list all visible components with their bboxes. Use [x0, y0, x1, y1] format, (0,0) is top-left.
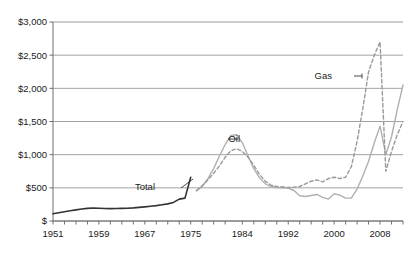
x-axis-tick-label: 1959	[88, 228, 109, 239]
total-label: Total	[135, 181, 155, 192]
x-axis: 19511959196719751984199220002008	[42, 221, 403, 239]
chart-container: $$500$1,000$1,500$2,000$2,500$3,00019511…	[0, 0, 419, 260]
series-line-gas	[196, 42, 403, 191]
x-axis-tick-label: 2008	[369, 228, 390, 239]
line-chart: $$500$1,000$1,500$2,000$2,500$3,00019511…	[0, 0, 419, 260]
series-line-total	[53, 177, 191, 213]
y-axis-tick-label: $2,000	[18, 83, 47, 94]
x-axis-tick-label: 1975	[180, 228, 201, 239]
x-axis-tick-label: 1984	[232, 228, 253, 239]
y-axis-tick-label: $2,500	[18, 50, 47, 61]
y-axis-tick-label: $1,000	[18, 149, 47, 160]
x-axis-tick-label: 1992	[278, 228, 299, 239]
oil-label: Oil	[228, 133, 240, 144]
gridlines	[53, 22, 403, 221]
gas-label: Gas	[315, 70, 333, 81]
y-axis-tick-label: $1,500	[18, 116, 47, 127]
x-axis-tick-label: 1951	[42, 228, 63, 239]
y-axis-tick-label: $3,000	[18, 16, 47, 27]
y-axis-tick-label: $	[42, 215, 48, 226]
y-axis: $$500$1,000$1,500$2,000$2,500$3,000	[18, 16, 53, 226]
total-label-leader	[181, 179, 193, 188]
x-axis-tick-label: 1967	[134, 228, 155, 239]
x-axis-tick-label: 2000	[324, 228, 345, 239]
y-axis-tick-label: $500	[26, 182, 47, 193]
